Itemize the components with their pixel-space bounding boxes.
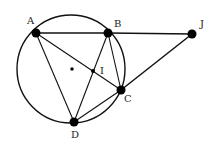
point-b [104, 29, 113, 38]
label-a: A [26, 15, 35, 26]
point-j [188, 30, 197, 39]
points [32, 29, 197, 127]
segment-bc [108, 33, 121, 90]
label-b: B [114, 18, 121, 29]
point-i [91, 69, 95, 73]
diagram-svg: ABJCDI [0, 0, 218, 146]
point-d [70, 118, 79, 127]
segment-cd [74, 90, 121, 122]
label-d: D [71, 129, 79, 140]
geometry-diagram: ABJCDI [0, 0, 218, 146]
label-i: I [100, 65, 104, 76]
circle-center-point [70, 67, 74, 71]
point-a [32, 29, 41, 38]
segment-jc [121, 34, 192, 90]
segments [36, 33, 192, 122]
label-c: C [124, 93, 132, 104]
label-j: J [199, 18, 204, 29]
segment-bj [108, 33, 192, 34]
